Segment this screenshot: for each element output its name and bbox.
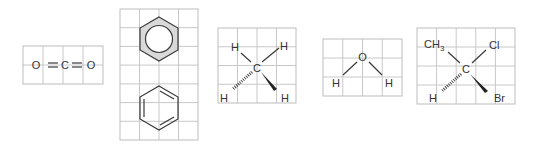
chiral-atom-cl: Cl [489, 39, 499, 51]
benzene-aromatic-circle [146, 26, 173, 53]
methane-atom-h-bottom-left: H [220, 92, 228, 104]
chiral-dash-bond-h [442, 74, 461, 91]
water-bond-right [369, 62, 382, 75]
benzene-panel [120, 9, 198, 140]
water-panel: O H H [323, 39, 402, 96]
chiral-panel: CH3 Cl C H Br [417, 28, 515, 104]
water-atom-o: O [358, 51, 367, 63]
methane-bond-top-left [241, 53, 251, 62]
chiral-bond-cl [472, 50, 486, 63]
chiral-atom-h: H [429, 92, 437, 104]
water-bond-left [343, 62, 357, 75]
chiral-bond-ch3 [448, 52, 460, 63]
methane-panel: H H C H H [218, 28, 296, 104]
co2-atom-c: C [61, 59, 69, 71]
chiral-wedge-bond-br [470, 74, 488, 93]
methane-atom-h-top-left: H [231, 41, 239, 53]
methane-atom-c: C [253, 62, 261, 74]
co2-atom-o2: O [87, 59, 96, 71]
chiral-atom-ch3: CH3 [424, 38, 445, 53]
water-atom-h-left: H [332, 77, 340, 89]
methane-atom-h-bottom-right: H [281, 92, 289, 104]
benzene-kekule-double-1 [160, 91, 174, 99]
methane-atom-h-top-right: H [280, 40, 288, 52]
water-atom-h-right: H [385, 77, 393, 89]
chiral-atom-c: C [462, 63, 470, 75]
methane-wedge-bond [261, 72, 277, 91]
co2-panel: O C O [23, 46, 103, 84]
molecule-diagrams: O C O H H C H H [0, 0, 535, 144]
methane-dash-bond [233, 72, 252, 89]
chiral-atom-br: Br [494, 92, 505, 104]
co2-atom-o1: O [32, 59, 41, 71]
